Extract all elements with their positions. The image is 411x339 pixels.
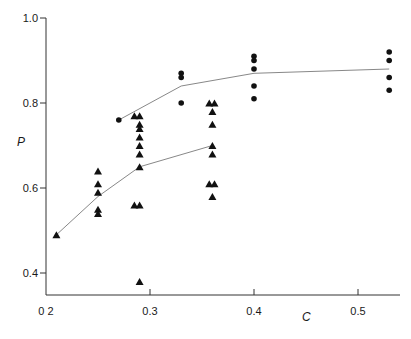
x-tick-label: 0.4 (246, 305, 261, 317)
triangle-marker (210, 100, 218, 107)
triangle-marker (136, 142, 144, 149)
triangle-marker (208, 151, 216, 158)
triangle-marker (94, 168, 102, 175)
triangle-marker (208, 193, 216, 200)
x-axis-title: C (302, 310, 311, 324)
y-tick-label: 0.6 (23, 182, 38, 194)
dot-marker (251, 83, 257, 89)
triangle-marker (136, 112, 144, 119)
triangle-marker (210, 180, 218, 187)
y-tick-label: 0.4 (23, 267, 38, 279)
dot-marker (116, 117, 122, 123)
dot-marker (386, 75, 392, 81)
triangle-marker (94, 189, 102, 196)
triangle-marker (208, 108, 216, 115)
triangles-fit-line (56, 146, 212, 235)
y-tick-label: 1.0 (23, 12, 38, 24)
triangle-marker (136, 134, 144, 141)
triangle-marker (136, 163, 144, 170)
triangle-marker (94, 180, 102, 187)
axes: 0.40.60.81.00 20.30.40.5 (23, 12, 400, 317)
y-tick-label: 0.8 (23, 97, 38, 109)
dot-marker (251, 58, 257, 64)
x-tick-label: 0.5 (350, 305, 365, 317)
scatter-chart: 0.40.60.81.00 20.30.40.5 C P (0, 0, 411, 339)
dot-marker (386, 58, 392, 64)
dot-marker (178, 75, 184, 81)
triangle-marker (136, 278, 144, 285)
triangle-marker (136, 151, 144, 158)
triangle-marker (208, 142, 216, 149)
x-tick-label: 0 2 (38, 305, 53, 317)
data-markers (52, 49, 392, 285)
dot-marker (178, 100, 184, 106)
triangle-marker (208, 121, 216, 128)
triangle-marker (136, 202, 144, 209)
dot-marker (251, 96, 257, 102)
y-axis-title: P (17, 135, 25, 149)
dot-marker (386, 87, 392, 93)
dots-fit-line (119, 69, 389, 120)
fit-lines (56, 69, 389, 235)
dot-marker (386, 49, 392, 55)
x-tick-label: 0.3 (142, 305, 157, 317)
dot-marker (251, 66, 257, 72)
